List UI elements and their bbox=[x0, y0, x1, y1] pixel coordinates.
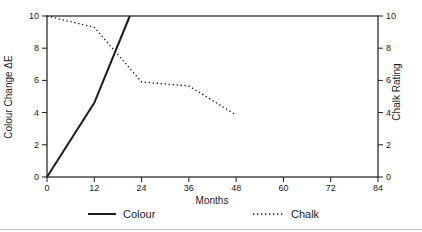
right-y-tick-label: 10 bbox=[386, 11, 396, 21]
x-tick-label: 0 bbox=[44, 183, 49, 193]
x-tick-label: 72 bbox=[326, 183, 336, 193]
series-line-chalk bbox=[47, 16, 236, 115]
x-tick-label: 36 bbox=[184, 183, 194, 193]
left-y-tick-label: 10 bbox=[29, 11, 39, 21]
right-y-tick-label: 2 bbox=[386, 140, 391, 150]
x-axis-title: Months bbox=[196, 195, 229, 206]
legend: Colour Chalk bbox=[88, 208, 320, 220]
left-y-tick-label: 8 bbox=[34, 43, 39, 53]
legend-label-chalk: Chalk bbox=[291, 208, 320, 220]
x-tick-label: 48 bbox=[231, 183, 241, 193]
legend-label-colour: Colour bbox=[123, 208, 156, 220]
left-axis-title: Colour Change ΔE bbox=[3, 55, 14, 139]
line-chart: 01224364860728402468100246810 Months Col… bbox=[0, 0, 422, 232]
left-y-tick-label: 6 bbox=[34, 75, 39, 85]
left-y-tick-label: 2 bbox=[34, 140, 39, 150]
series-line-colour bbox=[47, 16, 130, 177]
left-y-tick-label: 4 bbox=[34, 108, 39, 118]
data-series bbox=[47, 16, 236, 177]
x-tick-label: 84 bbox=[373, 183, 383, 193]
right-axis-title: Chalk Rating bbox=[391, 63, 402, 120]
right-y-tick-label: 0 bbox=[386, 172, 391, 182]
right-y-tick-label: 8 bbox=[386, 43, 391, 53]
x-tick-label: 60 bbox=[278, 183, 288, 193]
left-y-tick-label: 0 bbox=[34, 172, 39, 182]
page-bottom-rule bbox=[0, 229, 422, 230]
x-tick-label: 12 bbox=[89, 183, 99, 193]
x-tick-label: 24 bbox=[137, 183, 147, 193]
axis-ticks: 01224364860728402468100246810 bbox=[29, 11, 396, 193]
chart-figure: 01224364860728402468100246810 Months Col… bbox=[0, 0, 422, 232]
